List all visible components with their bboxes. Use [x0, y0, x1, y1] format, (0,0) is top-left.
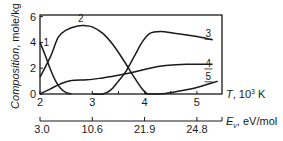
curve-label-2: 2: [78, 13, 84, 24]
x-tick-label: 3: [89, 96, 95, 108]
secondary-x-tick-label: 21.9: [134, 123, 155, 135]
curve-5: [145, 81, 218, 94]
x-tick-label: 2: [37, 96, 43, 108]
x-axis-title: T, 103 K: [226, 88, 266, 100]
secondary-x-tick-label: 24.8: [186, 123, 207, 135]
x-tick-label: 5: [194, 96, 200, 108]
secondary-x-tick-label: 3.0: [34, 123, 49, 135]
y-tick-label: 6: [30, 11, 36, 23]
curve-label-1: 1: [43, 37, 49, 48]
secondary-x-tick-label: 10.6: [82, 123, 103, 135]
y-tick-label: 4: [30, 36, 36, 48]
composition-chart: 12345 024623453.010.621.924.8 Compositio…: [0, 0, 283, 141]
curve-2: [40, 26, 147, 94]
axis-ticks: 024623453.010.621.924.8: [30, 11, 222, 135]
curve-label-3: 3: [206, 28, 212, 39]
y-tick-label: 2: [30, 62, 36, 74]
curve-labels: 12345: [43, 13, 212, 82]
secondary-x-axis-title: Ev, eV/mol: [226, 115, 277, 129]
y-tick-label: 0: [30, 88, 36, 100]
curve-label-5: 5: [206, 71, 212, 82]
x-tick-label: 4: [142, 96, 148, 108]
y-axis-title: Composition, mole/kg: [9, 3, 21, 109]
curve-label-4: 4: [206, 58, 212, 69]
curves: [40, 26, 218, 95]
